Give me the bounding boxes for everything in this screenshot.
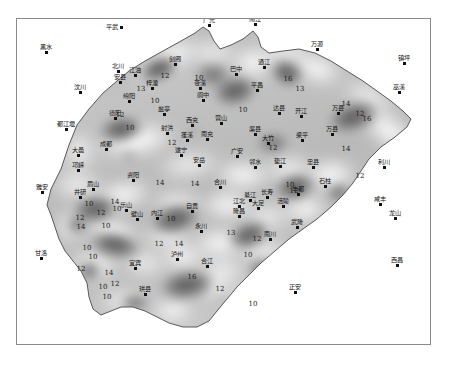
city-label: 忠县: [307, 159, 319, 166]
city-marker: [120, 26, 123, 29]
city-marker: [45, 51, 48, 54]
city-marker: [40, 257, 43, 260]
city-label: 甘洛: [35, 250, 47, 257]
city-label: 泸州: [171, 251, 183, 258]
city-label: 壁山: [131, 211, 143, 218]
contour-value-label: 12: [76, 215, 85, 222]
city-label: 南江: [249, 18, 261, 22]
city-label: 大竹: [262, 135, 274, 142]
city-label: 西充: [186, 117, 198, 124]
city-label: 乐山: [120, 202, 132, 209]
city-marker: [174, 63, 177, 66]
city-marker: [294, 291, 297, 294]
contour-value-label: 10: [195, 75, 204, 82]
contour-value-label: 12: [161, 73, 170, 80]
contour-value-label: 10: [83, 245, 92, 252]
city-marker: [202, 99, 205, 102]
city-label: 营山: [215, 115, 227, 122]
city-label: 安县: [114, 74, 126, 81]
city-marker: [163, 113, 166, 116]
city-marker: [324, 185, 327, 188]
city-label: 剑阁: [169, 56, 181, 63]
city-label: 广元: [203, 18, 215, 23]
city-marker: [278, 112, 281, 115]
city-label: 永川: [195, 223, 207, 230]
city-label: 咸丰: [374, 196, 386, 203]
city-marker: [208, 24, 211, 27]
contour-value-label: 12: [111, 281, 120, 288]
city-label: 大足: [252, 200, 264, 207]
contour-value-label: 14: [105, 270, 114, 277]
city-label: 内江: [151, 210, 163, 217]
city-marker: [263, 66, 266, 69]
map-frame: 江油安县北川梓潼绵阳德阳剑阁盐亭苍溪阆中巴中通江平昌达县开江万县梁平万县西充营山…: [16, 18, 431, 345]
city-marker: [151, 87, 154, 90]
city-marker: [92, 188, 95, 191]
city-marker: [79, 196, 82, 199]
city-label: 武隆: [291, 219, 303, 226]
city-marker: [156, 217, 159, 220]
contour-value-label: 12: [155, 241, 164, 248]
city-marker: [282, 205, 285, 208]
city-marker: [394, 217, 397, 220]
city-label: 巫溪: [393, 84, 405, 91]
city-marker: [316, 48, 319, 51]
city-marker: [257, 207, 260, 210]
city-label: 阆中: [197, 92, 209, 99]
city-label: 平昌: [251, 82, 263, 89]
city-marker: [219, 186, 222, 189]
city-marker: [269, 238, 272, 241]
city-marker: [65, 128, 68, 131]
city-marker: [117, 70, 120, 73]
contour-value-label: 10: [89, 254, 98, 261]
city-marker: [180, 154, 183, 157]
city-marker: [398, 91, 401, 94]
city-label: 涪陵: [277, 198, 289, 205]
city-marker: [312, 166, 315, 169]
city-marker: [186, 139, 189, 142]
city-marker: [176, 258, 179, 261]
city-marker: [238, 215, 241, 218]
city-label: 开江: [295, 108, 307, 115]
city-marker: [199, 87, 202, 90]
city-label: 都江堰: [57, 121, 75, 128]
contour-value-label: 14: [191, 181, 200, 188]
city-marker: [220, 122, 223, 125]
city-label: 盐亭: [158, 106, 170, 113]
contour-value-label: 12: [269, 145, 278, 152]
contour-value-label: 12: [356, 173, 365, 180]
contour-value-label: 10: [151, 98, 160, 105]
city-marker: [254, 23, 257, 26]
contour-value-label: 10: [249, 301, 258, 308]
city-marker: [403, 62, 406, 65]
city-marker: [200, 230, 203, 233]
contour-value-label: 12: [290, 188, 299, 195]
city-label: 江北: [233, 198, 245, 205]
city-label: 镇坪: [398, 55, 410, 62]
city-marker: [396, 264, 399, 267]
city-label: 渠县: [249, 126, 261, 133]
contour-value-label: 13: [296, 86, 305, 93]
city-label: 邻水: [249, 159, 261, 166]
contour-value-label: 16: [188, 274, 197, 281]
city-marker: [41, 191, 44, 194]
city-label: 眉山: [87, 181, 99, 188]
contour-value-label: 10: [244, 252, 253, 259]
city-marker: [191, 124, 194, 127]
contour-value-label: 12: [253, 236, 262, 243]
city-label: 南充: [201, 131, 213, 138]
city-label: 梁平: [296, 132, 308, 139]
city-marker: [331, 133, 334, 136]
city-marker: [134, 74, 137, 77]
city-label: 蓬溪: [181, 132, 193, 139]
city-marker: [254, 133, 257, 136]
city-marker: [79, 91, 82, 94]
city-label: 正安: [289, 284, 301, 291]
city-label: 雅安: [36, 184, 48, 191]
city-label: 珙县: [139, 286, 151, 293]
contour-value-label: 14: [342, 146, 351, 153]
city-label: 北川: [112, 63, 124, 70]
city-marker: [279, 165, 282, 168]
contour-value-label: 12: [77, 266, 86, 273]
city-label: 合江: [201, 258, 213, 265]
